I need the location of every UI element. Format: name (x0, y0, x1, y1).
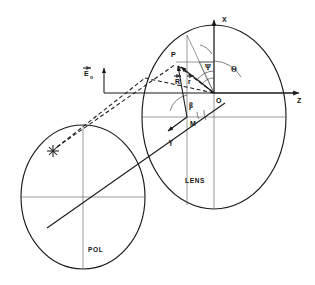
point-P-label: P (171, 51, 176, 58)
lens-region-label: LENS (185, 177, 205, 184)
gamma-ray-group: γ (47, 103, 225, 228)
origin-label: O (216, 97, 222, 104)
vector-r-label: r (188, 78, 191, 85)
e0-subscript-label: o (90, 74, 93, 80)
theta-angle-label: Θ (231, 65, 237, 74)
psi-angle-label: Ψ (205, 63, 211, 72)
dashed-incident-ray (57, 64, 176, 147)
gamma-ray-arrow (168, 117, 187, 131)
vector-R-line (178, 66, 187, 117)
gamma-angle-label: γ (168, 137, 173, 146)
e0-vector-assembly: E o (83, 68, 104, 93)
gamma-ray-line (47, 103, 225, 228)
beta-angle-label: β (189, 101, 193, 110)
dashed-ray-pol-segment (57, 78, 145, 147)
m-right-arc (204, 110, 206, 120)
vectors-group: R r (174, 66, 214, 117)
theta-angle-arc (214, 61, 241, 77)
z-axis-label: Z (297, 97, 302, 104)
optical-geometry-figure: POL X Z O E o (0, 0, 315, 285)
diagram-root: POL X Z O E o (0, 0, 315, 285)
point-P-group: P (171, 51, 176, 58)
x-axis-label: X (222, 16, 227, 23)
vector-R-label: R (175, 78, 180, 85)
coordinate-axes: X Z O (214, 16, 302, 104)
pol-assembly: POL (21, 125, 145, 269)
e0-label: E (84, 70, 89, 77)
upper-construction-arc (200, 45, 212, 54)
pol-region-label: POL (88, 246, 103, 253)
beta-small-arc (197, 112, 199, 119)
